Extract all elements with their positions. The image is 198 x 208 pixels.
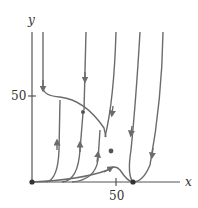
- arrow-icon: [152, 148, 153, 156]
- x-tick-label: 50: [109, 189, 124, 203]
- y-axis-label: y: [27, 13, 35, 27]
- arrow-icon: [131, 126, 132, 134]
- interior-equilibrium-point: [109, 149, 114, 154]
- y-tick-label: 50: [11, 89, 26, 103]
- separatrix-curve: [43, 32, 106, 137]
- separatrix-point: [81, 110, 85, 114]
- origin-point: [29, 179, 34, 184]
- arrow-icon: [97, 154, 98, 162]
- x-axis-label: x: [185, 175, 192, 189]
- x-axis-equilibrium-point: [130, 179, 135, 184]
- arrow-icon: [104, 168, 111, 172]
- arrow-icon: [112, 106, 113, 114]
- trajectory-1: [46, 100, 60, 182]
- trajectory-5: [105, 32, 116, 137]
- phase-plane-diagram: y x 50 50: [0, 0, 198, 208]
- trajectory-8: [133, 32, 163, 182]
- trajectory-7: [129, 32, 140, 182]
- trajectory-4: [84, 32, 86, 110]
